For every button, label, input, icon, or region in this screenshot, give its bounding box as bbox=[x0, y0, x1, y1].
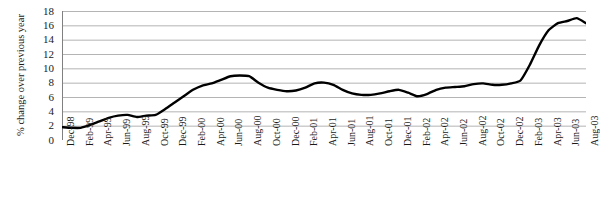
y-tick-label: 8 bbox=[30, 77, 54, 88]
x-tick-label: Aug-03 bbox=[590, 115, 600, 146]
x-tick-label: Feb-01 bbox=[309, 118, 319, 146]
x-tick-label: Oct-01 bbox=[384, 118, 394, 146]
x-tick-label: Apr-99 bbox=[103, 117, 113, 146]
x-tick-label: Dec-99 bbox=[178, 117, 188, 146]
y-axis-title: % change over previous year bbox=[14, 0, 28, 150]
y-tick-label: 4 bbox=[30, 106, 54, 117]
x-tick-label: Dec-02 bbox=[515, 117, 525, 146]
x-tick-label: Dec-01 bbox=[403, 117, 413, 146]
x-tick-label: Feb-00 bbox=[197, 118, 207, 146]
x-tick-label: Dec-00 bbox=[291, 117, 301, 146]
x-tick-label: Oct-00 bbox=[272, 118, 282, 146]
y-tick-label: 18 bbox=[30, 6, 54, 17]
x-tick-label: Dec-98 bbox=[66, 117, 76, 146]
x-tick-label: Jun-03 bbox=[571, 119, 581, 146]
x-tick-label: Apr-02 bbox=[440, 117, 450, 146]
x-tick-label: Jun-02 bbox=[459, 119, 469, 146]
x-tick-label: Apr-03 bbox=[553, 117, 563, 146]
x-tick-label: Oct-02 bbox=[496, 118, 506, 146]
x-tick-label: Oct-99 bbox=[160, 118, 170, 146]
x-tick-label: Apr-01 bbox=[328, 117, 338, 146]
y-tick-label: 14 bbox=[30, 34, 54, 45]
x-tick-label: Feb-99 bbox=[85, 118, 95, 146]
y-tick-label: 10 bbox=[30, 63, 54, 74]
x-tick-label: Feb-02 bbox=[422, 118, 432, 146]
x-tick-label: Aug-00 bbox=[253, 115, 263, 146]
y-tick-label: 2 bbox=[30, 120, 54, 131]
y-tick-label: 0 bbox=[30, 135, 54, 146]
x-tick-label: Feb-03 bbox=[534, 118, 544, 146]
y-tick-label: 12 bbox=[30, 49, 54, 60]
x-tick-label: Aug-02 bbox=[478, 115, 488, 146]
x-tick-label: Apr-00 bbox=[216, 117, 226, 146]
x-tick-label: Jun-01 bbox=[347, 119, 357, 146]
x-tick-label: Jun-99 bbox=[122, 119, 132, 146]
x-tick-label: Aug-99 bbox=[141, 115, 151, 146]
y-tick-label: 16 bbox=[30, 20, 54, 31]
x-tick-label: Aug-01 bbox=[365, 115, 375, 146]
y-tick-label: 6 bbox=[30, 92, 54, 103]
x-tick-label: Jun-00 bbox=[234, 119, 244, 146]
